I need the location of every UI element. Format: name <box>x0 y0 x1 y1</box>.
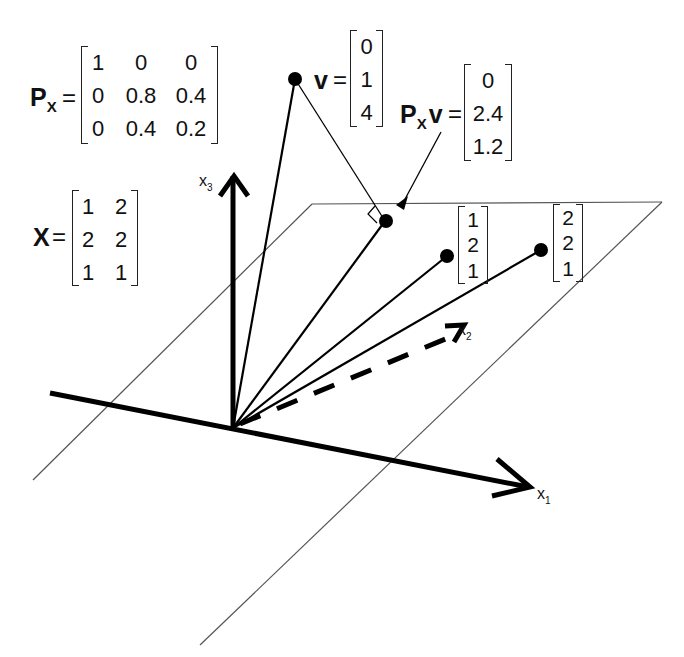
right-bracket <box>576 204 583 282</box>
axis-subscript: 3 <box>207 182 213 193</box>
left-bracket <box>72 190 79 286</box>
x2-axis-label: x2 <box>458 321 472 339</box>
equals-sign: = <box>52 223 66 251</box>
point-v <box>288 72 302 86</box>
p-symbol: P <box>30 83 47 111</box>
p-symbol: P <box>400 100 417 128</box>
point-col2 <box>534 243 548 257</box>
column-2-vector: 2 2 1 <box>553 204 583 282</box>
v-symbol: v <box>429 100 443 128</box>
equals-sign: = <box>333 66 347 94</box>
matrix-cell: 0 <box>167 46 215 79</box>
axis-subscript: 2 <box>466 331 472 342</box>
vector-v-symbol: v <box>314 66 328 95</box>
x1-axis-label: x1 <box>537 485 551 503</box>
design-matrix-symbol: X <box>33 223 50 252</box>
x1-axis <box>50 393 530 496</box>
right-bracket <box>481 206 488 284</box>
axis-subscript: 1 <box>545 495 551 506</box>
left-bracket <box>458 206 465 284</box>
left-bracket <box>553 204 560 282</box>
column-1-vector: 1 2 1 <box>458 206 488 284</box>
left-bracket <box>350 30 357 127</box>
axis-base: x <box>537 485 545 502</box>
matrix-cell: 0.4 <box>115 112 167 145</box>
right-bracket <box>131 190 138 286</box>
projected-v-symbol: PXv <box>400 100 443 129</box>
left-bracket <box>81 46 88 144</box>
design-matrix: 1 2 2 2 1 1 <box>72 190 138 286</box>
matrix-cell: 0.4 <box>167 79 215 112</box>
axis-base: x <box>199 172 207 189</box>
point-col1 <box>440 249 454 263</box>
right-bracket <box>505 64 512 161</box>
equals-sign: = <box>448 100 462 128</box>
right-angle-marker <box>368 206 377 223</box>
matrix-cell: 0.8 <box>115 79 167 112</box>
vector-v: 0 1 4 <box>350 30 383 127</box>
projection-matrix: 1 0 0 0 0.8 0.4 0 0.4 0.2 <box>81 46 218 144</box>
x3-axis <box>220 176 248 428</box>
matrix-cell: 0 <box>115 46 167 79</box>
matrix-cell: 0.2 <box>167 112 215 145</box>
pointer-arrow <box>396 132 441 210</box>
projection-matrix-symbol: PX <box>30 83 57 112</box>
p-subscript: X <box>417 115 427 132</box>
projected-v-vector: 0 2.4 1.2 <box>464 64 512 161</box>
equals-sign: = <box>62 84 76 112</box>
right-bracket <box>211 46 218 144</box>
point-pxv <box>379 214 393 228</box>
vector-col2-line <box>233 250 541 428</box>
right-bracket <box>376 30 383 127</box>
vector-v-line <box>233 79 295 428</box>
p-subscript: X <box>47 98 57 115</box>
x3-axis-label: x3 <box>199 172 213 190</box>
left-bracket <box>464 64 471 161</box>
axis-base: x <box>458 321 466 338</box>
